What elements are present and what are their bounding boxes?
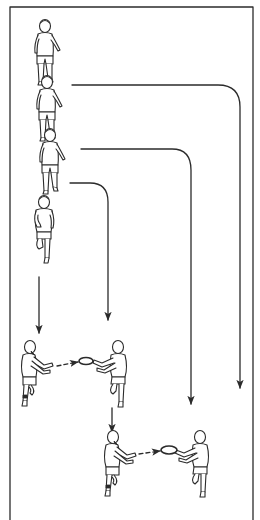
run-paths: [70, 85, 240, 404]
pass-arrow-1: [57, 362, 78, 366]
drill-canvas: [0, 0, 260, 520]
player-queue-4: [35, 196, 54, 264]
run-1-arrow: [72, 85, 240, 388]
run-3-arrow: [70, 183, 108, 320]
run-2-arrow: [81, 149, 191, 404]
passer-player-1: [22, 341, 54, 407]
passer-player-2: [105, 431, 137, 497]
receiver-player-2: [175, 431, 209, 498]
ring-icon: [79, 358, 93, 365]
ring-icon: [161, 446, 177, 454]
pair-1: [22, 341, 127, 408]
pair-2: [105, 431, 209, 498]
drill-diagram: [0, 0, 260, 520]
pass-arrow-2: [139, 451, 160, 454]
receiver-player-1: [93, 341, 127, 408]
queue-players: [35, 20, 65, 264]
